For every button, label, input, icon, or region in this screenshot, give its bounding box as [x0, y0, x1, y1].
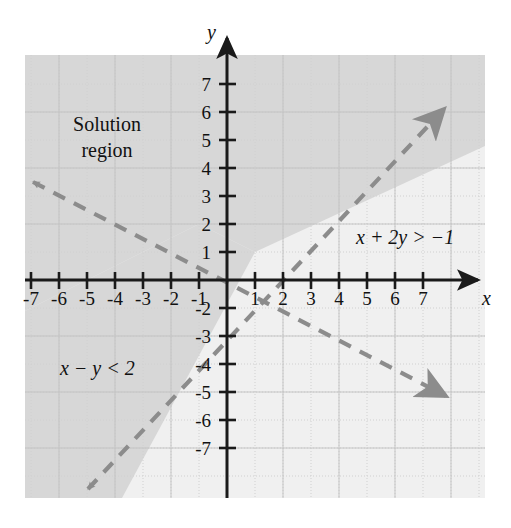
x-tick-label-5: 5	[355, 289, 379, 308]
y-tick-label--2: -2	[177, 299, 211, 318]
y-tick-label-7: 7	[185, 75, 211, 94]
y-tick-label-5: 5	[185, 131, 211, 150]
y-tick-label-6: 6	[185, 103, 211, 122]
x-tick-label--3: -3	[131, 289, 155, 308]
y-tick-label-3: 3	[185, 187, 211, 206]
y-tick-label--3: -3	[177, 327, 211, 346]
inequality-label-x-plus-2y: x + 2y > −1	[356, 226, 454, 249]
x-axis-label: x	[482, 288, 491, 308]
solution-region-label-line1: Solution	[52, 113, 162, 136]
x-tick-label--7: -7	[19, 289, 43, 308]
x-tick-label-7: 7	[411, 289, 435, 308]
y-tick-label--4: -4	[177, 355, 211, 374]
y-tick-label-2: 2	[185, 215, 211, 234]
x-tick-label-2: 2	[271, 289, 295, 308]
y-tick-label--6: -6	[177, 411, 211, 430]
y-tick-label-4: 4	[185, 159, 211, 178]
x-tick-label-3: 3	[299, 289, 323, 308]
x-tick-label-4: 4	[327, 289, 351, 308]
inequality-label-x-minus-y: x − y < 2	[60, 357, 135, 380]
y-tick-label--5: -5	[177, 383, 211, 402]
inequality-graph-figure: -7 -6 -5 -4 -3 -2 -1 1 2 3 4 5 6 7 7 6 5…	[0, 0, 511, 528]
x-tick-label--4: -4	[103, 289, 127, 308]
x-tick-label--6: -6	[47, 289, 71, 308]
x-tick-label--5: -5	[75, 289, 99, 308]
graph-canvas	[0, 0, 511, 528]
x-tick-label-1: 1	[243, 289, 267, 308]
y-axis-label: y	[207, 22, 216, 42]
y-tick-label--7: -7	[177, 439, 211, 458]
solution-region-label-line2: region	[52, 139, 162, 162]
x-tick-label-6: 6	[383, 289, 407, 308]
y-tick-label-1: 1	[185, 243, 211, 262]
